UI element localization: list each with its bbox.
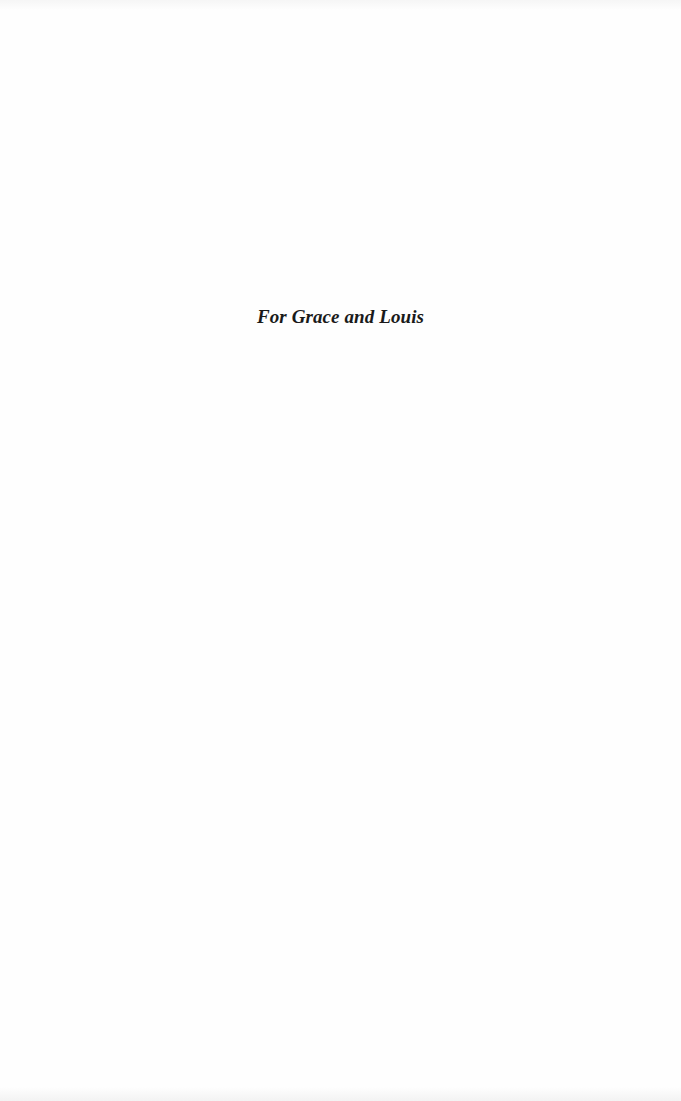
scan-edge-top <box>0 0 681 10</box>
book-page: For Grace and Louis <box>0 0 681 1101</box>
dedication-text: For Grace and Louis <box>0 305 681 329</box>
scan-edge-bottom <box>0 1087 681 1101</box>
